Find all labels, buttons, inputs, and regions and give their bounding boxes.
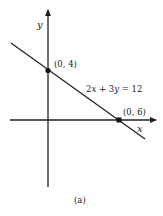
figure-caption: (a) <box>74 195 86 205</box>
point-y-intercept <box>45 68 50 73</box>
eq-plus-3: + 3 <box>96 84 114 94</box>
graph-diagram: y x (0, 4) (0, 6) 2x + 3y = 12 (a) <box>0 0 163 216</box>
eq-rhs: = 12 <box>119 84 142 94</box>
y-axis-label: y <box>36 19 43 30</box>
x-axis-label: x <box>137 123 143 134</box>
point-label-x-intercept: (0, 6) <box>123 107 146 117</box>
equation-label: 2x + 3y = 12 <box>86 84 142 94</box>
point-label-y-intercept: (0, 4) <box>54 59 77 69</box>
point-x-intercept <box>117 118 122 123</box>
